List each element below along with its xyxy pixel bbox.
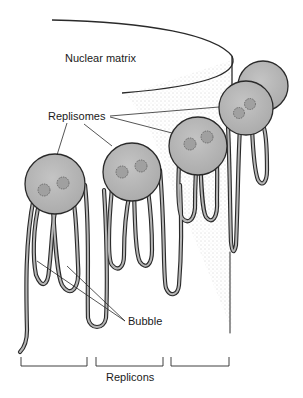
- replicon-bracket-2: [96, 357, 163, 366]
- replicon-brackets: [21, 357, 229, 366]
- replisome-sphere-1: [25, 154, 85, 214]
- replisome-sphere-3: [169, 117, 227, 175]
- replication-diagram: Nuclear matrix: [0, 0, 303, 398]
- replisome-sphere-2: [103, 143, 161, 201]
- replicon-bracket-1: [21, 357, 87, 366]
- bubble-label: Bubble: [128, 315, 162, 327]
- nuclear-matrix-label: Nuclear matrix: [65, 52, 136, 64]
- replisomes-label: Replisomes: [48, 110, 106, 122]
- replicons-label: Replicons: [106, 371, 155, 383]
- replicon-bracket-3: [171, 357, 229, 366]
- bubble-leader-lines: [37, 261, 125, 321]
